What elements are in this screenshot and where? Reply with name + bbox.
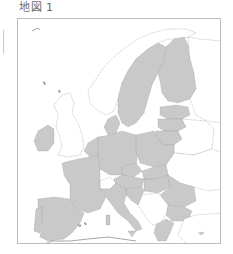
map-svg (18, 19, 221, 244)
shetland-islands (58, 90, 60, 93)
region-sardinia (106, 215, 110, 225)
region-sicily (128, 231, 136, 237)
iceland-fragment (32, 28, 40, 31)
europe-map (17, 18, 221, 244)
faroe-islands (43, 82, 45, 85)
figure-title: 地図 1 (19, 1, 54, 15)
region-portugal (34, 207, 42, 233)
region-ireland (34, 125, 54, 151)
side-scroll-bar (3, 30, 4, 54)
region-estonia (160, 105, 190, 119)
region-denmark (104, 115, 120, 135)
region-united-kingdom (54, 93, 84, 157)
